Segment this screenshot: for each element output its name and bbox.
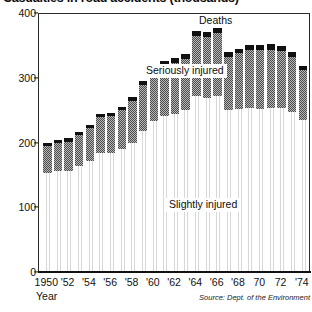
bar-1957 (118, 107, 127, 271)
segment-seriously-injured (139, 85, 148, 130)
segment-seriously-injured (245, 50, 254, 109)
segment-slightly-injured (192, 96, 201, 271)
segment-seriously-injured (75, 135, 84, 166)
series-label-deaths: Deaths (196, 14, 235, 28)
bar-1963 (181, 54, 190, 271)
segment-seriously-injured (150, 73, 159, 121)
segment-slightly-injured (256, 109, 265, 271)
x-axis-tick-label: '74 (295, 276, 309, 288)
segment-slightly-injured (86, 161, 95, 271)
x-axis-tick-label: 70 (253, 276, 265, 288)
x-axis-tick-label: '66 (210, 276, 224, 288)
bar-1959 (139, 81, 148, 271)
bar-1968 (235, 49, 244, 271)
segment-slightly-injured (107, 153, 116, 271)
segment-slightly-injured (181, 110, 190, 271)
plot-area (38, 13, 310, 272)
segment-seriously-injured (118, 110, 127, 149)
bar-1969 (245, 45, 254, 271)
segment-slightly-injured (64, 171, 73, 271)
segment-slightly-injured (288, 112, 297, 271)
bar-1956 (107, 113, 116, 271)
segment-slightly-injured (224, 110, 233, 271)
bar-1950 (43, 143, 52, 271)
segment-slightly-injured (235, 109, 244, 271)
bar-1952 (64, 138, 73, 271)
segment-slightly-injured (171, 114, 180, 271)
segment-seriously-injured (86, 128, 95, 161)
segment-seriously-injured (235, 53, 244, 109)
segment-seriously-injured (267, 50, 276, 108)
chart-title: Casualties in road accidents (thousands) (3, 0, 239, 5)
segment-slightly-injured (267, 108, 276, 271)
y-axis-tick-mark (34, 271, 38, 272)
x-axis-tick-label: 1950 (35, 276, 58, 288)
bar-1953 (75, 132, 84, 271)
y-axis-tick-mark (34, 12, 38, 13)
y-axis-tick-mark (34, 207, 38, 208)
segment-slightly-injured (139, 131, 148, 272)
x-axis-tick-label: '68 (231, 276, 245, 288)
segment-slightly-injured (75, 166, 84, 271)
segment-seriously-injured (54, 143, 63, 171)
x-axis: Year Source: Dept. of the Environment 19… (38, 274, 310, 310)
bar-1954 (86, 125, 95, 271)
bars-container (39, 14, 309, 271)
segment-slightly-injured (160, 116, 169, 271)
bar-1970 (256, 45, 265, 271)
bar-1974 (299, 66, 308, 271)
bar-1967 (224, 52, 233, 271)
x-axis-label: Year (36, 290, 57, 302)
bar-1972 (277, 46, 286, 271)
x-axis-tick-label: 72 (275, 276, 287, 288)
bar-1971 (267, 44, 276, 271)
segment-slightly-injured (118, 149, 127, 271)
segment-slightly-injured (54, 171, 63, 271)
x-axis-tick-label: '62 (167, 276, 181, 288)
x-axis-tick-label: '60 (146, 276, 160, 288)
segment-slightly-injured (299, 120, 308, 272)
segment-seriously-injured (64, 142, 73, 171)
x-axis-tick-label: '52 (61, 276, 75, 288)
bar-1960 (150, 68, 159, 271)
segment-seriously-injured (256, 50, 265, 110)
series-label-seriously-injured: Seriously injured (143, 64, 227, 78)
segment-seriously-injured (43, 146, 52, 173)
x-axis-tick-label: '56 (103, 276, 117, 288)
bar-1973 (288, 52, 297, 271)
y-axis-tick-mark (34, 142, 38, 143)
segment-seriously-injured (288, 57, 297, 113)
segment-seriously-injured (277, 51, 286, 109)
source-note: Source: Dept. of the Environment (199, 293, 310, 302)
segment-slightly-injured (213, 96, 222, 271)
segment-slightly-injured (96, 153, 105, 271)
segment-slightly-injured (128, 143, 137, 271)
series-label-slightly-injured: Slightly injured (166, 198, 240, 212)
segment-slightly-injured (150, 121, 159, 271)
bar-1961 (160, 61, 169, 271)
bar-1951 (54, 140, 63, 271)
segment-slightly-injured (203, 98, 212, 271)
chart-figure: Casualties in road accidents (thousands)… (0, 0, 312, 312)
segment-seriously-injured (96, 117, 105, 153)
segment-seriously-injured (299, 70, 308, 119)
x-axis-tick-label: '54 (82, 276, 96, 288)
segment-slightly-injured (245, 108, 254, 271)
x-axis-tick-label: '64 (189, 276, 203, 288)
bar-1962 (171, 58, 180, 271)
x-axis-tick-label: '58 (125, 276, 139, 288)
y-axis-tick-mark (34, 77, 38, 78)
segment-slightly-injured (43, 173, 52, 271)
bar-1955 (96, 114, 105, 271)
segment-slightly-injured (277, 108, 286, 271)
segment-seriously-injured (128, 101, 137, 143)
bar-1958 (128, 97, 137, 271)
segment-seriously-injured (107, 116, 116, 153)
